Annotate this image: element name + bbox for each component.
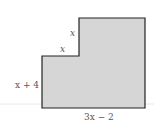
l-shape-figure xyxy=(0,0,154,127)
left-side-label: x + 4 xyxy=(15,81,39,90)
lower-step-label: x xyxy=(60,45,65,54)
l-shape-polygon xyxy=(42,18,145,108)
upper-step-label: x xyxy=(70,29,75,38)
bottom-side-label: 3x − 2 xyxy=(84,113,114,122)
